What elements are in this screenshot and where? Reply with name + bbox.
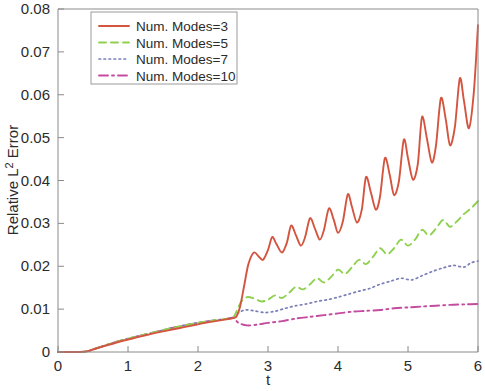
y-tick-label: 0.08 <box>21 0 50 17</box>
y-tick-label: 0.05 <box>21 129 50 146</box>
legend[interactable]: Num. Modes=3Num. Modes=5Num. Modes=7Num.… <box>91 12 237 84</box>
chart-figure: 00.010.020.030.040.050.060.070.08 012345… <box>0 0 485 391</box>
x-tick-label: 0 <box>54 357 62 374</box>
y-axis-title-main: Relative L <box>4 168 21 235</box>
legend-label: Num. Modes=5 <box>136 36 228 51</box>
x-tick-label: 5 <box>404 357 412 374</box>
y-tick-label: 0.01 <box>21 300 50 317</box>
y-axis-title-tail: Error <box>4 125 21 163</box>
legend-label: Num. Modes=10 <box>136 69 235 84</box>
x-tick-label: 6 <box>474 357 482 374</box>
y-tick-label: 0.03 <box>21 214 50 231</box>
y-axis-title: Relative L2 Error <box>3 125 21 235</box>
legend-label: Num. Modes=7 <box>136 52 228 67</box>
y-tick-label: 0.04 <box>21 172 50 189</box>
svg-text:Relative L2 Error: Relative L2 Error <box>3 125 21 235</box>
y-tick-label: 0.07 <box>21 43 50 60</box>
relative-l2-error-line-chart: 00.010.020.030.040.050.060.070.08 012345… <box>0 0 485 391</box>
x-tick-label: 2 <box>194 357 202 374</box>
x-tick-label: 1 <box>124 357 132 374</box>
legend-label: Num. Modes=3 <box>136 19 228 34</box>
y-tick-label: 0.06 <box>21 86 50 103</box>
y-tick-label: 0.02 <box>21 257 50 274</box>
y-tick-label: 0 <box>42 343 50 360</box>
x-tick-label: 4 <box>334 357 342 374</box>
